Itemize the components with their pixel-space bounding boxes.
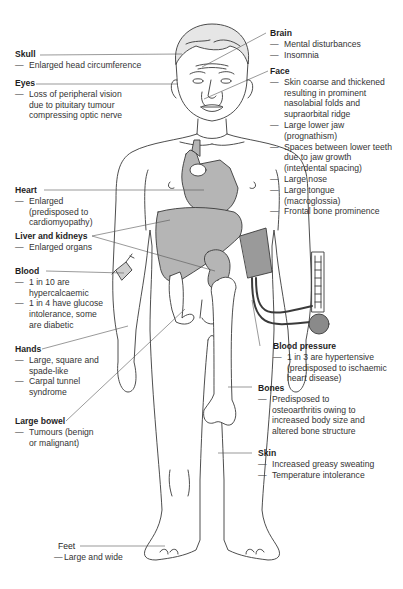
label-title: Skin bbox=[258, 448, 388, 459]
label-title: Blood pressure bbox=[273, 341, 395, 352]
label-title: Face bbox=[270, 66, 392, 77]
label-title: Eyes bbox=[15, 78, 130, 89]
label-item: Enlarged head circumference bbox=[15, 60, 141, 71]
label-item: Loss of peripheral vision due to pituita… bbox=[15, 89, 130, 121]
label-item: 1 in 3 are hypertensive (predisposed to … bbox=[273, 352, 395, 384]
label-large-bowel: Large bowel Tumours (benign or malignant… bbox=[15, 416, 99, 448]
label-item: Large nose bbox=[270, 174, 392, 185]
label-title: Feet bbox=[58, 541, 148, 552]
label-title: Hands bbox=[15, 344, 99, 355]
label-blood: Blood 1 in 10 are hypercalcaemic 1 in 4 … bbox=[15, 266, 111, 331]
label-heart: Heart Enlarged (predisposed to cardiomyo… bbox=[15, 185, 115, 228]
label-title: Large bowel bbox=[15, 416, 99, 427]
label-eyes: Eyes Loss of peripheral vision due to pi… bbox=[15, 78, 130, 121]
label-item: Mental disturbances bbox=[270, 39, 400, 50]
label-item: Temperature intolerance bbox=[258, 470, 388, 481]
label-item: Large tongue (macroglossia) bbox=[270, 185, 392, 207]
head-illustration bbox=[171, 24, 253, 121]
label-item: Large lower jaw (prognathism) bbox=[270, 120, 392, 142]
femur-illustration bbox=[204, 277, 236, 425]
label-item: Tumours (benign or malignant) bbox=[15, 427, 99, 449]
label-item: Large, square and spade-like bbox=[15, 355, 99, 377]
label-item: 1 in 4 have glucose intolerance, some ar… bbox=[15, 298, 111, 330]
label-feet: Feet Large and wide bbox=[58, 541, 148, 563]
label-item: Predisposed to osteoarthritis owing to i… bbox=[258, 394, 378, 437]
syringe-illustration bbox=[112, 254, 134, 280]
heart-illustration bbox=[182, 140, 238, 214]
label-face: Face Skin coarse and thickened resulting… bbox=[270, 66, 392, 217]
label-item: Carpal tunnel syndrome bbox=[15, 376, 99, 398]
label-item: Insomnia bbox=[270, 50, 400, 61]
label-title: Heart bbox=[15, 185, 115, 196]
label-title: Skull bbox=[15, 49, 141, 60]
label-skin: Skin Increased greasy sweating Temperatu… bbox=[258, 448, 388, 480]
label-item: Increased greasy sweating bbox=[258, 459, 388, 470]
large-bowel-illustration bbox=[169, 272, 194, 324]
label-title: Brain bbox=[270, 28, 400, 39]
label-brain: Brain Mental disturbances Insomnia bbox=[270, 28, 400, 60]
label-bones: Bones Predisposed to osteoarthritis owin… bbox=[258, 383, 378, 437]
label-title: Blood bbox=[15, 266, 111, 277]
label-item: Enlarged organs bbox=[15, 242, 92, 253]
label-hands: Hands Large, square and spade-like Carpa… bbox=[15, 344, 99, 398]
label-item: Spaces between lower teeth due to jaw gr… bbox=[270, 142, 392, 174]
label-item: 1 in 10 are hypercalcaemic bbox=[15, 277, 111, 299]
label-title: Liver and kidneys bbox=[15, 231, 92, 242]
label-item: Large and wide bbox=[58, 552, 148, 563]
label-item: Skin coarse and thickened resulting in p… bbox=[270, 77, 392, 120]
label-liver-kidneys: Liver and kidneys Enlarged organs bbox=[15, 231, 92, 253]
label-blood-pressure: Blood pressure 1 in 3 are hypertensive (… bbox=[273, 341, 395, 384]
label-item: Enlarged (predisposed to cardiomyopathy) bbox=[15, 196, 115, 228]
label-skull: Skull Enlarged head circumference bbox=[15, 49, 141, 71]
label-title: Bones bbox=[258, 383, 378, 394]
label-item: Frontal bone prominence bbox=[270, 206, 392, 217]
bp-cuff-illustration bbox=[240, 228, 329, 334]
